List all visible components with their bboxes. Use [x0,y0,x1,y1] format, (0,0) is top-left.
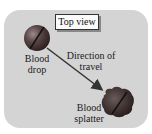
blood-drop-label-line2: drop [22,64,52,75]
blood-drop-label-line1: Blood [22,53,52,64]
direction-label: Direction of travel [63,50,119,72]
direction-label-line1: Direction of [63,50,119,61]
direction-label-line2: travel [63,61,119,72]
blood-drop-icon [24,25,50,51]
top-view-label: Top view [55,14,99,30]
blood-splatter-label: Blood splatter [72,102,106,124]
blood-splatter-label-line2: splatter [72,113,106,124]
blood-drop-label: Blood drop [22,53,52,75]
blood-splatter-icon [102,87,134,118]
blood-splatter-label-line1: Blood [72,102,106,113]
